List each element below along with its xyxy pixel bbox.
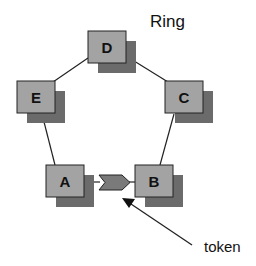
node-c: C xyxy=(165,81,213,123)
diagram-title: Ring xyxy=(150,12,185,31)
ring-diagram: D C B A E Ring token xyxy=(0,0,256,266)
node-label-d: D xyxy=(102,39,113,56)
node-e: E xyxy=(17,81,65,123)
node-label-c: C xyxy=(179,89,190,106)
arrowhead-icon xyxy=(122,198,135,208)
edge-c-b xyxy=(160,114,174,165)
token-annotation-label: token xyxy=(204,238,241,255)
edge-e-d xyxy=(53,58,88,82)
node-d: D xyxy=(88,31,136,73)
node-b: B xyxy=(135,165,183,207)
node-a: A xyxy=(46,165,94,207)
token-chevron-icon xyxy=(99,175,130,190)
node-label-e: E xyxy=(31,89,41,106)
node-label-a: A xyxy=(60,173,71,190)
node-label-b: B xyxy=(149,173,160,190)
